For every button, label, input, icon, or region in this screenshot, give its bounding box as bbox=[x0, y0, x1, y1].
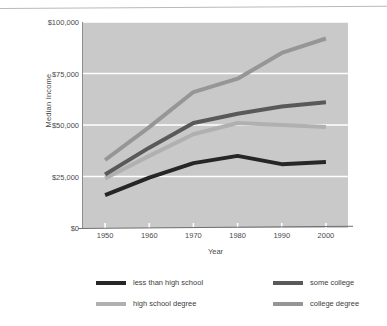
chart-figure: Median Income $0$25,000$50,000$75,000$10… bbox=[0, 0, 387, 326]
legend-item: some college bbox=[273, 278, 354, 287]
legend-swatch bbox=[273, 302, 303, 306]
legend-label: less than high school bbox=[133, 278, 203, 287]
chart-legend: less than high schoolhigh school degrees… bbox=[96, 278, 376, 320]
x-tick-label: 1960 bbox=[141, 231, 158, 240]
x-tick-label: 1970 bbox=[185, 231, 202, 240]
legend-swatch bbox=[96, 302, 126, 306]
plot-area bbox=[83, 22, 348, 228]
legend-swatch bbox=[273, 281, 303, 285]
data-series-group bbox=[105, 38, 326, 195]
legend-label: college degree bbox=[310, 299, 359, 308]
legend-label: high school degree bbox=[133, 299, 196, 308]
y-axis-line bbox=[82, 22, 83, 229]
series-line bbox=[105, 123, 326, 179]
series-line bbox=[105, 38, 326, 160]
legend-swatch bbox=[96, 281, 126, 285]
x-tick-label: 1950 bbox=[97, 231, 114, 240]
legend-item: high school degree bbox=[96, 299, 196, 308]
legend-label: some college bbox=[310, 278, 354, 287]
x-axis-title: Year bbox=[83, 247, 348, 256]
x-tick-label: 1990 bbox=[273, 231, 290, 240]
y-axis-tick-labels: $0$25,000$50,000$75,000$100,000 bbox=[0, 0, 79, 326]
legend-item: less than high school bbox=[96, 278, 203, 287]
chart-canvas bbox=[83, 22, 348, 228]
x-tick-label: 2000 bbox=[318, 231, 335, 240]
legend-item: college degree bbox=[273, 299, 359, 308]
x-tick-label: 1980 bbox=[229, 231, 246, 240]
x-axis-tick-labels: 195019601970198019902000 bbox=[83, 231, 348, 245]
